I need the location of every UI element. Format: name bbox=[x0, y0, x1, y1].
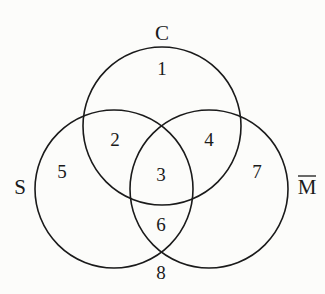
set-label-s: S bbox=[14, 175, 26, 199]
set-label-c: C bbox=[155, 21, 169, 45]
region-label-5: 5 bbox=[57, 161, 67, 182]
region-label-6: 6 bbox=[156, 214, 166, 235]
region-label-7: 7 bbox=[252, 161, 262, 182]
region-label-2: 2 bbox=[110, 129, 120, 150]
region-label-3: 3 bbox=[156, 164, 166, 185]
region-label-1: 1 bbox=[157, 58, 167, 79]
venn-diagram: C S M 1 2 3 4 5 7 6 8 bbox=[0, 0, 325, 294]
region-label-4: 4 bbox=[204, 129, 214, 150]
region-label-8: 8 bbox=[156, 262, 166, 283]
set-label-m-bar: M bbox=[298, 175, 317, 199]
